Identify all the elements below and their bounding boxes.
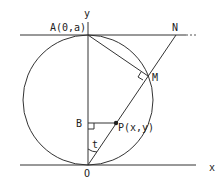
label-angle-t: t: [92, 139, 98, 150]
right-angle-marker-b: [88, 123, 94, 129]
diagram-canvas: y x A(0,a) N M B P(x,y) t O: [0, 0, 224, 194]
label-b: B: [76, 118, 82, 129]
label-m: M: [152, 72, 158, 83]
ray-o-to-n: [88, 35, 176, 165]
label-a: A(0,a): [50, 22, 86, 33]
label-y-axis: y: [84, 8, 90, 19]
label-p: P(x,y): [118, 122, 154, 133]
geometry-figure: y x A(0,a) N M B P(x,y) t O: [0, 0, 224, 194]
right-angle-marker-m: [138, 72, 143, 80]
label-o: O: [84, 168, 90, 179]
label-x-axis: x: [209, 162, 215, 173]
label-n: N: [172, 22, 178, 33]
segment-a-m: [88, 35, 148, 76]
